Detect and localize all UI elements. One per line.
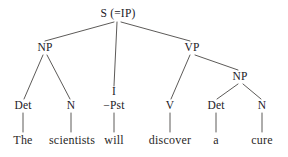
node-det-object: Det [207, 100, 224, 112]
node-past-feature: −Pst [103, 100, 124, 112]
terminal-word: a [213, 134, 219, 146]
tree-edge-object_np-to-det2 [217, 84, 238, 99]
tree-branch-lines [23, 22, 262, 132]
tree-edge-vp-to-object_np [195, 55, 238, 70]
node-v: V [166, 100, 175, 112]
node-vp: VP [184, 42, 199, 54]
terminal-word: The [13, 134, 32, 146]
terminal-word: discover [149, 134, 191, 146]
tree-edge-object_np-to-n2 [243, 84, 261, 99]
terminal-word: will [104, 134, 123, 146]
tree-edge-root-to-subject_np [45, 22, 114, 41]
tree-edge-root-to-vp [121, 22, 190, 41]
tree-edge-subject_np-to-n1 [47, 55, 70, 99]
tree-edge-vp-to-v [171, 55, 190, 99]
syntax-tree-diagram: S (=IP) NP I VP NP Det N −Pst V Det N Th… [0, 0, 288, 157]
node-n-object: N [258, 100, 267, 112]
terminal-word: scientists [49, 134, 95, 146]
node-s-root: S (=IP) [100, 8, 135, 20]
node-n-subject: N [67, 100, 76, 112]
node-subject-np: NP [37, 42, 52, 54]
tree-edge-subject_np-to-det1 [24, 55, 43, 99]
tree-edge-root-to-infl [114, 22, 117, 86]
node-det-subject: Det [14, 100, 31, 112]
node-infl: I [112, 86, 116, 98]
terminal-word: cure [251, 134, 272, 146]
node-object-np: NP [232, 71, 247, 83]
